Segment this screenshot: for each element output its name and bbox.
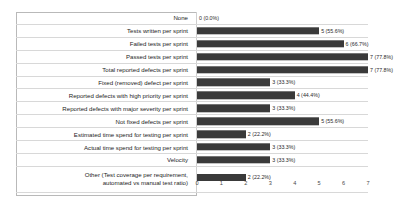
bar-track: 3 (33.3%) [197,77,368,89]
bar [197,130,246,137]
bar-value-label: 3 (33.3%) [272,79,295,85]
bar-value-label: 7 (77.8%) [370,67,393,73]
category-label: Reported defects with major severity per… [16,102,192,114]
bar-value-label: 0 (0.0%) [199,15,219,21]
bar-track: 3 (33.3%) [197,154,368,166]
bar-track: 3 (33.3%) [197,141,368,153]
bar-track: 2 (22.2%) [197,128,368,140]
category-label: Not fixed defects per sprint [16,115,192,127]
bar-value-label: 4 (44.4%) [297,92,320,98]
bar [197,143,270,150]
category-label: Other (Test coverage per requirement, au… [16,167,192,192]
table-row: Total reported defects per sprint7 (77.8… [16,64,368,77]
table-row: Tests written per sprint5 (55.6%) [16,25,368,38]
table-row: Fixed (removed) defect per sprint3 (33.3… [16,77,368,90]
bar [197,156,270,163]
category-label: Failed tests per sprint [16,38,192,50]
x-axis: 01234567 [197,180,368,200]
table-row: Estimated time spend for testing per spr… [16,128,368,141]
bar-track: 6 (66.7%) [197,38,368,50]
table-row: Reported defects with major severity per… [16,102,368,115]
bar-track: 3 (33.3%) [197,102,368,114]
bar [197,27,319,34]
bar [197,105,270,112]
bar [197,66,368,73]
bar-track: 0 (0.0%) [197,12,368,24]
category-label: Velocity [16,154,192,166]
x-axis-tick-label: 6 [342,180,345,187]
bar-value-label: 5 (55.6%) [321,28,344,34]
table-row: Failed tests per sprint6 (66.7%) [16,38,368,51]
bar-value-label: 6 (66.7%) [346,41,369,47]
bar-value-label: 5 (55.6%) [321,118,344,124]
table-row: Actual time spend for testing per sprint… [16,141,368,154]
bar [197,92,295,99]
category-label: Actual time spend for testing per sprint [16,141,192,153]
bar-chart: None0 (0.0%)Tests written per sprint5 (5… [0,0,406,224]
x-axis-tick-label: 7 [366,180,369,187]
bar [197,79,270,86]
table-row: Reported defects with high priority per … [16,89,368,102]
table-row: Not fixed defects per sprint5 (55.6%) [16,115,368,128]
bar [197,40,344,47]
category-label: Fixed (removed) defect per sprint [16,77,192,89]
bar-track: 4 (44.4%) [197,89,368,101]
table-row: None0 (0.0%) [16,12,368,25]
bar-value-label: 3 (33.3%) [272,105,295,111]
bar-value-label: 7 (77.8%) [370,54,393,60]
x-axis-tick-label: 5 [318,180,321,187]
bar-track: 7 (77.8%) [197,64,368,76]
bar-track: 5 (55.6%) [197,25,368,37]
category-label: Passed tests per sprint [16,51,192,63]
x-axis-tick-label: 3 [269,180,272,187]
bar-track: 7 (77.8%) [197,51,368,63]
category-label: Estimated time spend for testing per spr… [16,128,192,140]
bar-track: 5 (55.6%) [197,115,368,127]
bar-value-label: 2 (22.2%) [248,131,271,137]
category-label: Total reported defects per sprint [16,64,192,76]
x-axis-tick-label: 0 [195,180,198,187]
category-label: Tests written per sprint [16,25,192,37]
table-row: Passed tests per sprint7 (77.8%) [16,51,368,64]
x-axis-tick-label: 2 [244,180,247,187]
x-axis-tick-label: 1 [220,180,223,187]
bar [197,53,368,60]
bar [197,118,319,125]
category-label: Reported defects with high priority per … [16,89,192,101]
x-axis-tick-label: 4 [293,180,296,187]
bar-rows: None0 (0.0%)Tests written per sprint5 (5… [16,12,368,180]
bar-value-label: 3 (33.3%) [272,144,295,150]
bar-value-label: 3 (33.3%) [272,157,295,163]
category-label: None [16,12,192,24]
table-row: Velocity3 (33.3%) [16,154,368,167]
